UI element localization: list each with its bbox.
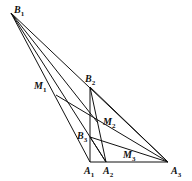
label-M3: M3 xyxy=(123,150,135,163)
label-M1: M1 xyxy=(34,81,46,94)
label-A3: A3 xyxy=(171,166,181,179)
label-B2: B2 xyxy=(85,74,95,87)
label-A2: A2 xyxy=(103,166,113,179)
label-B3: B3 xyxy=(77,131,87,144)
diagram-lines xyxy=(0,0,192,181)
geometry-diagram: B1B2B3M1M2M3A1A2A3 xyxy=(0,0,192,181)
label-A1: A1 xyxy=(84,166,94,179)
label-M2: M2 xyxy=(103,117,115,130)
label-B1: B1 xyxy=(14,5,24,18)
segment-B1-M2 xyxy=(11,13,98,123)
